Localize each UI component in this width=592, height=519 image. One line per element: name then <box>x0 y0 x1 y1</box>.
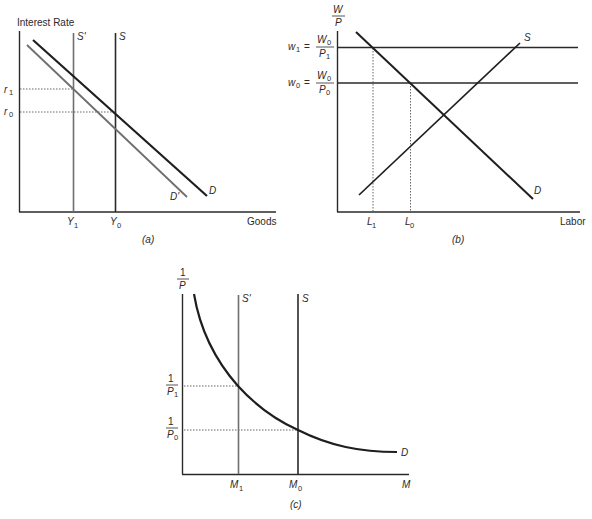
svg-text:M: M <box>230 479 239 490</box>
panel-b-x-axis-label: Labor <box>560 216 586 227</box>
panel-a-demand-label: D <box>209 185 216 196</box>
svg-text:0: 0 <box>298 484 302 493</box>
svg-text:w: w <box>288 77 296 88</box>
svg-text:W: W <box>333 4 344 15</box>
svg-text:w: w <box>288 41 296 52</box>
svg-text:1: 1 <box>74 221 78 230</box>
panel-a-y-axis-label: Interest Rate <box>17 17 75 28</box>
panel-b-supply-label: S <box>524 32 531 43</box>
panel-c-caption: (c) <box>290 499 302 510</box>
svg-text:0: 0 <box>296 81 300 90</box>
svg-text:P: P <box>167 386 174 397</box>
svg-text:1: 1 <box>180 267 186 278</box>
svg-text:r: r <box>4 84 8 95</box>
svg-text:1: 1 <box>174 390 178 399</box>
panel-b-w1-tick-label: w 1 = W 0 P 1 <box>288 34 334 61</box>
panel-c-M1-tick-label: M 1 <box>230 479 243 493</box>
svg-text:1: 1 <box>296 45 300 54</box>
svg-text:1: 1 <box>168 416 174 427</box>
svg-text:P: P <box>335 17 342 28</box>
svg-text:0: 0 <box>327 74 331 83</box>
svg-text:1: 1 <box>9 88 13 97</box>
svg-text:P: P <box>319 48 326 59</box>
svg-text:r: r <box>4 106 8 117</box>
svg-text:M: M <box>289 479 298 490</box>
svg-text:0: 0 <box>327 38 331 47</box>
panel-a-caption: (a) <box>142 234 154 245</box>
panel-a-supply-label: S <box>119 31 126 42</box>
panel-c-money-market: 1 P 1 P 1 1 P 0 S' S D M 1 M 0 <box>166 267 411 510</box>
panel-c-y-axis-label: 1 P <box>177 267 189 291</box>
svg-text:0: 0 <box>174 433 178 442</box>
svg-text:1: 1 <box>326 52 330 61</box>
svg-text:=: = <box>304 77 310 88</box>
panel-b-L0-tick-label: L 0 <box>405 216 414 230</box>
panel-a-goods-market: Interest Rate S' S D D' r 1 r 0 Y 1 Y 0 … <box>4 17 276 245</box>
panel-b-demand-label: D <box>534 185 541 196</box>
panel-a-demand <box>33 40 207 196</box>
panel-c-supply-shifted-label: S' <box>242 293 252 304</box>
panel-b-L1-tick-label: L 1 <box>367 216 376 230</box>
panel-c-demand-curve <box>194 294 397 452</box>
svg-text:P: P <box>319 84 326 95</box>
svg-text:P: P <box>167 429 174 440</box>
svg-text:P: P <box>179 280 186 291</box>
panel-b-supply <box>359 43 520 195</box>
panel-a-r1-tick-label: r 1 <box>4 84 13 97</box>
panel-c-supply-label: S <box>302 293 309 304</box>
panel-b-y-axis-label: W P <box>332 4 345 28</box>
panel-a-demand-shifted <box>27 45 187 197</box>
panel-c-p0-tick-label: 1 P 0 <box>166 416 178 442</box>
panel-b-labor-market: W P w 1 = W 0 P 1 w 0 = W 0 P 0 S D <box>288 4 586 245</box>
panel-a-Y1-tick-label: Y 1 <box>67 216 78 230</box>
panel-a-x-axis-label: Goods <box>247 216 276 227</box>
panel-a-supply-shifted-label: S' <box>77 31 87 42</box>
panel-a-Y0-tick-label: Y 0 <box>110 216 121 230</box>
svg-text:1: 1 <box>168 373 174 384</box>
panel-c-M0-tick-label: M 0 <box>289 479 302 493</box>
panel-b-w0-tick-label: w 0 = W 0 P 0 <box>288 70 334 97</box>
svg-text:1: 1 <box>372 221 376 230</box>
svg-text:0: 0 <box>326 88 330 97</box>
panel-c-demand-label: D <box>401 447 408 458</box>
panel-a-r0-tick-label: r 0 <box>4 106 13 119</box>
panel-b-caption: (b) <box>452 234 464 245</box>
svg-text:1: 1 <box>239 484 243 493</box>
svg-text:=: = <box>304 41 310 52</box>
svg-text:0: 0 <box>117 221 121 230</box>
panel-a-demand-shifted-label: D' <box>170 191 180 202</box>
panel-b-demand <box>356 32 533 199</box>
svg-text:0: 0 <box>9 110 13 119</box>
panel-c-x-axis-label: M <box>402 479 411 490</box>
figure-canvas: Interest Rate S' S D D' r 1 r 0 Y 1 Y 0 … <box>0 0 592 519</box>
svg-text:0: 0 <box>410 221 414 230</box>
panel-c-p1-tick-label: 1 P 1 <box>166 373 178 399</box>
